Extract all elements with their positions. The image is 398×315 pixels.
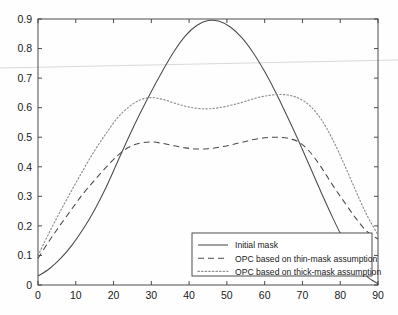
x-tick-label: 20 (108, 289, 120, 301)
x-tick-label: 40 (183, 289, 195, 301)
chart-plot-area: 0102030405060708090 00.10.20.30.40.50.60… (0, 0, 398, 315)
y-tick-label: 0.3 (17, 190, 32, 202)
y-tick-label: 0.4 (17, 161, 32, 173)
chart-legend[interactable]: Initial maskOPC based on thin-mask assum… (192, 233, 381, 277)
x-tick-label: 70 (297, 289, 309, 301)
y-tick-label: 0 (26, 279, 32, 291)
x-tick-label: 90 (372, 289, 384, 301)
y-tick-label: 0.2 (17, 220, 32, 232)
scan-artifact-line (0, 60, 398, 68)
x-tick-label: 30 (145, 289, 157, 301)
x-tick-label: 60 (259, 289, 271, 301)
y-tick-label: 0.1 (17, 249, 32, 261)
y-tick-label: 0.5 (17, 131, 32, 143)
y-tick-label: 0.8 (17, 42, 32, 54)
series-line-dotted (38, 95, 378, 256)
legend-label: Initial mask (235, 240, 279, 250)
x-tick-label: 50 (221, 289, 233, 301)
y-axis-tick-labels: 00.10.20.30.40.50.60.70.80.9 (17, 13, 32, 291)
y-tick-label: 0.9 (17, 13, 32, 25)
y-tick-label: 0.7 (17, 72, 32, 84)
x-axis-tick-labels: 0102030405060708090 (35, 289, 384, 301)
y-tick-label: 0.6 (17, 101, 32, 113)
x-tick-label: 10 (70, 289, 82, 301)
chart-figure: 0102030405060708090 00.10.20.30.40.50.60… (0, 0, 398, 315)
x-tick-label: 80 (334, 289, 346, 301)
legend-label: OPC based on thick-mask assumption (235, 267, 381, 277)
legend-label: OPC based on thin-mask assumption (235, 254, 378, 264)
x-tick-label: 0 (35, 289, 41, 301)
